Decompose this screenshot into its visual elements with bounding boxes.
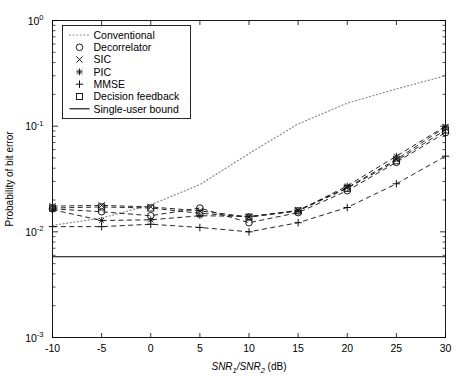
legend-label-mmse: MMSE xyxy=(94,78,126,90)
x-tick-label: 10 xyxy=(243,342,255,354)
legend-label-decorrelator: Decorrelator xyxy=(94,41,152,53)
figure-container: -10-505101520253010010-110-210-3Probabil… xyxy=(0,0,471,377)
legend-label-pic: PIC xyxy=(94,66,112,78)
x-tick-label: 25 xyxy=(391,342,403,354)
y-tick-label: 10-2 xyxy=(25,224,43,238)
series-line-decision-feedback xyxy=(53,130,446,217)
legend-label-sic: SIC xyxy=(94,53,112,65)
legend-label-single-user-bound: Single-user bound xyxy=(94,103,179,115)
x-tick-label: 5 xyxy=(197,342,203,354)
series-line-decorrelator xyxy=(53,133,446,223)
x-tick-label: -10 xyxy=(45,342,60,354)
series-line-sic xyxy=(53,127,446,217)
y-tick-label: 10-1 xyxy=(25,119,43,133)
legend-label-conventional: Conventional xyxy=(94,29,155,41)
x-tick-label: -5 xyxy=(97,342,106,354)
y-axis-title: Probability of bit error xyxy=(4,131,15,227)
x-tick-label: 20 xyxy=(341,342,353,354)
x-tick-label: 30 xyxy=(440,342,452,354)
series-line-pic xyxy=(53,126,446,220)
x-tick-label: 15 xyxy=(292,342,304,354)
y-tick-label: 100 xyxy=(28,13,44,27)
x-tick-label: 0 xyxy=(148,342,154,354)
legend-label-decision-feedback: Decision feedback xyxy=(94,90,181,102)
x-axis-title: SNR1/SNR2 (dB) xyxy=(211,361,286,375)
y-tick-label: 10-3 xyxy=(25,330,43,344)
chart-svg: -10-505101520253010010-110-210-3Probabil… xyxy=(0,0,471,377)
